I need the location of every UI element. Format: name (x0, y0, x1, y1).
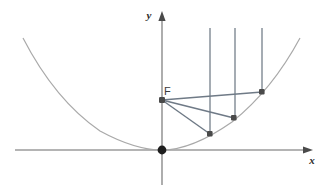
focal-radii-group (162, 92, 262, 134)
y-axis-label: y (145, 9, 152, 21)
parabola-figure: y x F (0, 0, 329, 191)
x-axis-label: x (308, 154, 315, 166)
focus-label: F (164, 85, 171, 97)
curve-point-1 (207, 131, 213, 137)
focal-radius-1 (162, 100, 210, 134)
focal-radius-2 (162, 100, 234, 118)
figure-canvas: y x F (0, 0, 329, 191)
x-axis-arrowhead (303, 146, 313, 153)
origin-point (158, 146, 167, 155)
y-axis-arrowhead (158, 11, 165, 21)
curve-point-3 (259, 89, 265, 95)
origin-point-group (158, 146, 167, 155)
focal-radius-3 (162, 92, 262, 100)
focus-point (159, 97, 165, 103)
curve-point-2 (231, 115, 237, 121)
focus-point-group (159, 97, 165, 103)
